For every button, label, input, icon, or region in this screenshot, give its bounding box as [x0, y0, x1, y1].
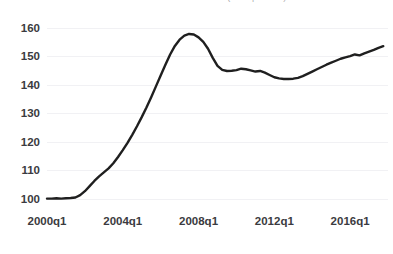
line-chart: Case-Shiller Home Price Index (2000q1 = …	[0, 0, 393, 254]
x-tick-label: 2000q1	[27, 215, 66, 228]
x-tick-label: 2016q1	[331, 215, 370, 228]
x-tick-label: 2012q1	[255, 215, 294, 228]
x-axis: 2000q12004q12008q12012q12016q1	[0, 0, 393, 254]
x-tick-label: 2004q1	[103, 215, 142, 228]
x-tick-label: 2008q1	[179, 215, 218, 228]
